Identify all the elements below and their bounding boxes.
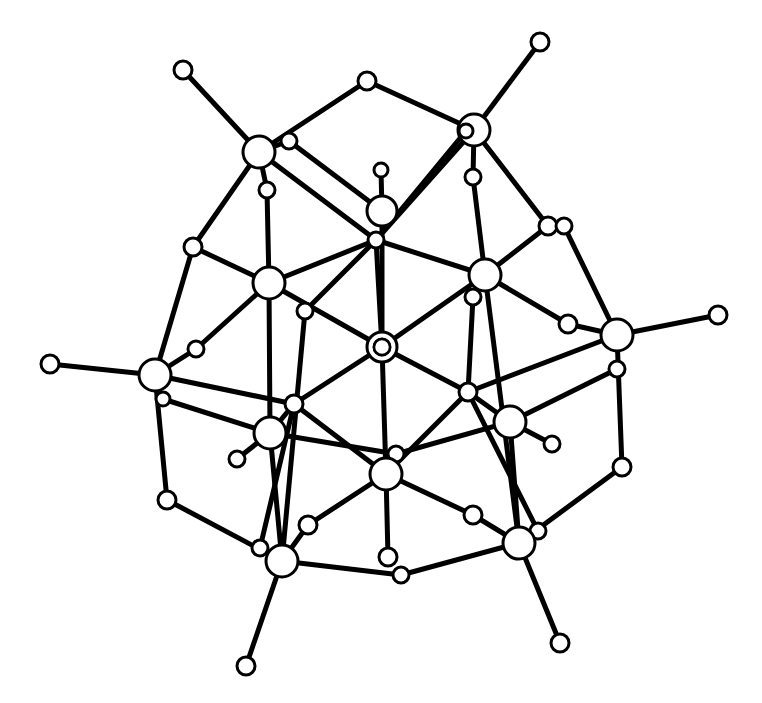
atom-a48 bbox=[551, 634, 569, 652]
bond-a18-a31 bbox=[468, 297, 473, 392]
atom-a11 bbox=[367, 196, 397, 226]
atom-a43 bbox=[503, 527, 535, 559]
atom-a12 bbox=[368, 232, 384, 248]
atom-a14 bbox=[556, 218, 572, 234]
atom-a13 bbox=[539, 217, 557, 235]
atom-a41 bbox=[299, 516, 317, 534]
atom-a23 bbox=[188, 341, 204, 357]
bond-a43-a47 bbox=[401, 543, 519, 575]
atom-a37 bbox=[370, 458, 402, 490]
atom-a26 bbox=[41, 355, 59, 373]
bond-a21-a31 bbox=[468, 335, 617, 392]
bond-a12-a19 bbox=[305, 240, 376, 311]
atom-a1 bbox=[174, 61, 192, 79]
atom-a27 bbox=[139, 359, 171, 391]
atom-a7 bbox=[459, 124, 473, 138]
atom-a32 bbox=[254, 417, 286, 449]
molecular-cluster-diagram bbox=[0, 0, 762, 703]
atom-a49 bbox=[237, 657, 255, 675]
atom-a45 bbox=[379, 548, 397, 566]
atom-a5 bbox=[281, 133, 297, 149]
atom-a10 bbox=[465, 169, 481, 185]
atom-layer bbox=[41, 33, 727, 675]
atom-a20 bbox=[559, 315, 577, 333]
atom-a30 bbox=[285, 395, 303, 413]
bond-a3-a4 bbox=[259, 81, 367, 152]
atom-a31 bbox=[459, 383, 477, 401]
bond-a5-a11 bbox=[289, 141, 382, 211]
bond-a16-a32 bbox=[269, 283, 270, 433]
atom-a38 bbox=[613, 458, 631, 476]
atom-a40 bbox=[464, 506, 482, 524]
atom-a15 bbox=[184, 238, 202, 256]
atom-a2 bbox=[531, 33, 549, 51]
atom-a3 bbox=[358, 72, 376, 90]
bond-a28-a33 bbox=[510, 369, 617, 422]
atom-a46 bbox=[266, 545, 298, 577]
atom-a16 bbox=[253, 267, 285, 299]
atom-a18 bbox=[465, 289, 481, 305]
atom-a35 bbox=[544, 436, 560, 452]
bond-a24-a37 bbox=[382, 347, 386, 474]
atom-a28 bbox=[609, 361, 625, 377]
atom-a29 bbox=[156, 392, 170, 406]
atom-a47 bbox=[393, 567, 409, 583]
atom-a22 bbox=[709, 306, 727, 324]
atom-a34 bbox=[229, 451, 245, 467]
atom-a44 bbox=[252, 540, 268, 556]
atom-a21 bbox=[601, 319, 633, 351]
atom-a8 bbox=[374, 163, 388, 177]
atom-a17 bbox=[469, 259, 501, 291]
atom-a4 bbox=[243, 136, 275, 168]
atom-a9 bbox=[259, 182, 275, 198]
bond-a27-a30 bbox=[155, 375, 294, 404]
atom-inner-ring bbox=[374, 339, 390, 355]
bond-a21-a38 bbox=[617, 335, 622, 467]
atom-a33 bbox=[494, 406, 526, 438]
bond-a6-a13 bbox=[474, 130, 548, 226]
atom-a39 bbox=[158, 491, 176, 509]
atom-a19 bbox=[297, 303, 313, 319]
bond-a3-a6 bbox=[367, 81, 474, 130]
